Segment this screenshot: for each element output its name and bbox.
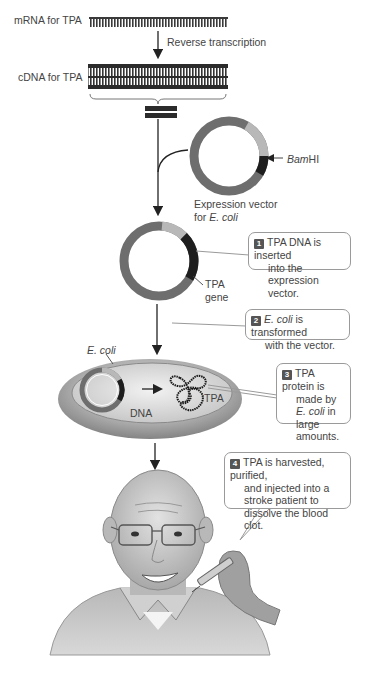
step-4-line-3: stroke patient to (230, 494, 345, 507)
step-2-italic-lead: E. coli (264, 313, 293, 325)
dna-label: DNA (130, 407, 152, 419)
step-1-line-2: into the expression (254, 262, 345, 287)
callout-2-leader (172, 323, 246, 326)
vector-label-line1: Expression vector (194, 198, 277, 210)
bamhi-label-italic: Bam (287, 153, 309, 165)
bamhi-label-rest: HI (309, 153, 320, 165)
mrna-label: mRNA for TPA (14, 14, 82, 26)
recombinant-plasmid (124, 226, 194, 296)
reverse-transcription-label: Reverse transcription (167, 36, 266, 48)
vector-label-prefix: for (194, 211, 209, 223)
step-1-line-1: TPA DNA is inserted (254, 236, 321, 261)
vector-label-line2: for E. coli (194, 211, 238, 223)
step-4-line-2: and injected into a (230, 482, 345, 495)
step-4-line-1: TPA is harvested, purified, (230, 456, 325, 481)
tpa-gene-label-line1: TPA (205, 278, 225, 290)
step-2-badge: 2 (251, 316, 261, 326)
step-3-callout: 3TPA protein is made by E. coli in large… (276, 363, 351, 424)
cdna-strand (88, 64, 228, 89)
vector-join-curve (158, 150, 188, 172)
tpa-protein-label: TPA (204, 392, 224, 404)
vector-label-ecoli: E. coli (209, 211, 238, 223)
step-1-callout: 1TPA DNA is inserted into the expression… (248, 232, 351, 270)
brace (90, 94, 226, 104)
bamhi-label: BamHI (287, 153, 319, 165)
step-4-line-4: dissolve the blood clot. (230, 507, 345, 532)
step-2-callout: 2E. coli is transformed with the vector. (245, 309, 350, 340)
step-3-line-4: amounts. (282, 430, 345, 443)
step-4-callout: 4TPA is harvested, purified, and injecte… (224, 452, 351, 509)
ecoli-label: E. coli (87, 344, 116, 356)
cdna-label: cDNA for TPA (18, 71, 82, 83)
expression-vector-plasmid (194, 121, 264, 191)
step-3-italic: E. coli (296, 405, 325, 417)
step-3-line-2: made by (282, 393, 345, 406)
step-3-badge: 3 (282, 370, 292, 380)
step-2-line-2: with the vector. (251, 339, 344, 352)
step-1-badge: 1 (254, 239, 264, 249)
step-4-badge: 4 (230, 459, 240, 469)
step-1-line-3: vector. (254, 287, 345, 300)
mrna-strand (89, 17, 228, 27)
tpa-gene-label-line2: gene (205, 291, 228, 303)
tpa-gene-pointer (193, 276, 203, 285)
callout-1-leader (196, 251, 249, 255)
cdna-fragment (145, 106, 177, 118)
